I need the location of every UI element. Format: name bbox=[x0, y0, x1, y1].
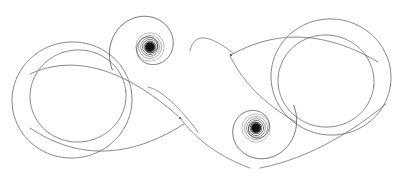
phase-portrait-figure: Phase portrait of a planar dynamical sys… bbox=[0, 0, 407, 177]
upper-right-crossing-marker bbox=[230, 54, 232, 56]
lower-spiral-sink-core bbox=[252, 124, 260, 132]
figure-background bbox=[0, 0, 407, 177]
upper-spiral-sink-core bbox=[146, 43, 154, 51]
phase-portrait-canvas bbox=[0, 0, 407, 177]
center-crossing-marker bbox=[179, 117, 181, 119]
